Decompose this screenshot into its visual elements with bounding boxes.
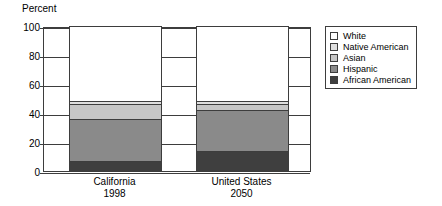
legend-item-asian[interactable]: Asian	[330, 52, 411, 63]
y-tick-label-80: 80	[10, 52, 40, 62]
y-tick-mark-20	[40, 144, 44, 145]
chart-container: Percent 020406080100 California1998Unite…	[0, 0, 442, 206]
x-axis-label-name: California	[93, 176, 135, 187]
legend-swatch-icon	[330, 76, 338, 84]
legend-label: African American	[343, 75, 411, 85]
bar-segment-asian	[196, 104, 289, 110]
legend-item-african-american[interactable]: African American	[330, 74, 411, 85]
y-tick-label-60: 60	[10, 81, 40, 91]
x-axis-label-name: United States	[211, 176, 271, 187]
y-tick-mark-80	[40, 57, 44, 58]
y-tick-mark-60	[40, 86, 44, 87]
legend-swatch-icon	[330, 43, 338, 51]
y-tick-label-100: 100	[10, 23, 40, 33]
legend-label: Hispanic	[343, 64, 378, 74]
y-tick-mark-0	[40, 173, 44, 174]
x-axis-label-year: 1998	[68, 188, 161, 200]
bar-united-states-2050	[196, 26, 289, 171]
bar-segment-white	[196, 26, 289, 101]
plot-area: 020406080100	[43, 27, 311, 172]
legend-swatch-icon	[330, 32, 338, 40]
x-axis-label-1: United States2050	[195, 176, 288, 200]
y-axis-title: Percent	[22, 3, 56, 14]
legend-label: White	[343, 31, 366, 41]
legend-item-native-american[interactable]: Native American	[330, 41, 411, 52]
legend-item-hispanic[interactable]: Hispanic	[330, 63, 411, 74]
legend-label: Native American	[343, 42, 409, 52]
gridline-0	[44, 173, 310, 174]
legend-swatch-icon	[330, 54, 338, 62]
bar-segment-hispanic	[69, 119, 162, 161]
y-tick-mark-100	[40, 28, 44, 29]
y-tick-label-40: 40	[10, 110, 40, 120]
y-tick-mark-40	[40, 115, 44, 116]
y-tick-label-0: 0	[10, 168, 40, 178]
bar-segment-white	[69, 26, 162, 101]
y-tick-label-20: 20	[10, 139, 40, 149]
bar-segment-hispanic	[196, 110, 289, 151]
bar-segment-asian	[69, 104, 162, 119]
bar-segment-african-american	[196, 151, 289, 171]
bar-california-1998	[69, 26, 162, 171]
bar-segment-native-american	[196, 101, 289, 104]
legend-label: Asian	[343, 53, 366, 63]
legend-item-white[interactable]: White	[330, 30, 411, 41]
legend: WhiteNative AmericanAsianHispanicAfrican…	[325, 26, 417, 89]
bar-segment-african-american	[69, 161, 162, 171]
bar-segment-native-american	[69, 101, 162, 104]
x-axis-label-year: 2050	[195, 188, 288, 200]
x-axis-label-0: California1998	[68, 176, 161, 200]
legend-swatch-icon	[330, 65, 338, 73]
